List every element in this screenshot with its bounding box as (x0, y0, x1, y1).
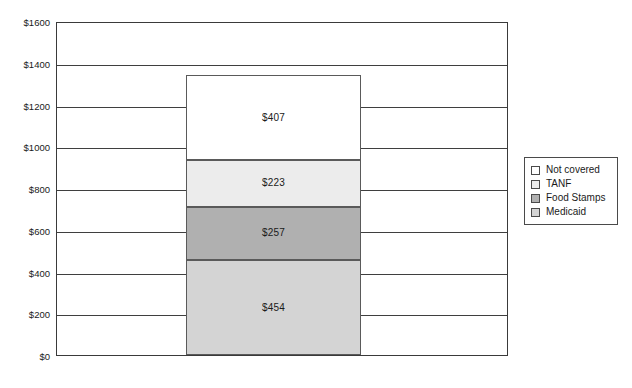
chart-legend: Not coveredTANFFood StampsMedicaid (524, 157, 618, 225)
y-axis-tick-label: $1400 (2, 60, 50, 70)
legend-swatch-icon (531, 208, 540, 217)
bar-segment-value-label: $257 (262, 228, 285, 238)
legend-item[interactable]: Not covered (531, 163, 612, 177)
y-axis-tick-label: $200 (2, 310, 50, 320)
y-axis-tick-label: $800 (2, 185, 50, 195)
y-axis-tick-label: $0 (2, 352, 50, 362)
y-axis-tick-label: $1000 (2, 143, 50, 153)
bar-segment[interactable]: $454 (186, 260, 361, 355)
legend-item-label: Food Stamps (546, 193, 605, 203)
legend-item-label: Medicaid (546, 207, 586, 217)
legend-item-label: TANF (546, 179, 571, 189)
bar-segment-value-label: $454 (262, 303, 285, 313)
legend-swatch-icon (531, 166, 540, 175)
bar-segment[interactable]: $407 (186, 75, 361, 160)
stacked-bar-chart: $0$200$400$600$800$1000$1200$1400$1600 $… (0, 0, 632, 388)
bar-segment-value-label: $223 (262, 178, 285, 188)
bar-segment-value-label: $407 (262, 113, 285, 123)
legend-item-label: Not covered (546, 165, 600, 175)
gridline (57, 65, 507, 66)
legend-swatch-icon (531, 194, 540, 203)
legend-item[interactable]: TANF (531, 177, 612, 191)
plot-area: $454$257$223$407 (56, 22, 508, 356)
y-axis-tick-label: $1200 (2, 102, 50, 112)
legend-swatch-icon (531, 180, 540, 189)
bar-segment[interactable]: $257 (186, 207, 361, 261)
legend-item[interactable]: Medicaid (531, 205, 612, 219)
y-axis-tick-label: $400 (2, 269, 50, 279)
legend-item[interactable]: Food Stamps (531, 191, 612, 205)
bar-segment[interactable]: $223 (186, 160, 361, 207)
y-axis-tick-label: $1600 (2, 18, 50, 28)
y-axis-tick-label: $600 (2, 227, 50, 237)
